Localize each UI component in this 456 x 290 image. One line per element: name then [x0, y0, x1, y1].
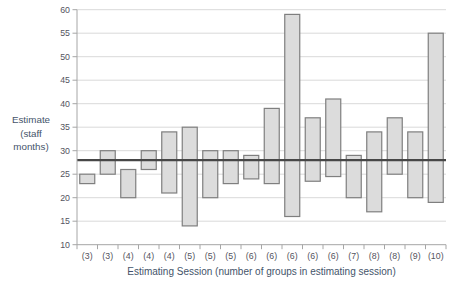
- plot-area: 1015202530354045505560(3)(3)(4)(4)(4)(5)…: [0, 0, 456, 290]
- y-axis-title-line3: months): [2, 140, 60, 154]
- y-tick-label: 35: [60, 122, 70, 132]
- y-tick-label: 10: [60, 240, 70, 250]
- y-axis-title: Estimate (staff months): [2, 113, 60, 154]
- y-tick-label: 55: [60, 28, 70, 38]
- estimate-range-bar: [80, 174, 95, 183]
- x-category-label: (7): [348, 251, 359, 261]
- x-category-label: (8): [389, 251, 400, 261]
- y-axis-title-line1: Estimate: [2, 113, 60, 127]
- estimate-range-bar: [100, 151, 115, 175]
- y-axis-title-line2: (staff: [2, 127, 60, 141]
- estimate-range-bar: [285, 14, 300, 216]
- x-category-label: (8): [369, 251, 380, 261]
- y-tick-label: 40: [60, 99, 70, 109]
- x-category-label: (9): [410, 251, 421, 261]
- x-category-label: (3): [102, 251, 113, 261]
- x-category-label: (6): [307, 251, 318, 261]
- estimate-range-bar: [305, 118, 320, 181]
- x-category-label: (5): [225, 251, 236, 261]
- estimate-range-bar: [121, 170, 136, 198]
- x-category-label: (5): [184, 251, 195, 261]
- y-tick-label: 20: [60, 193, 70, 203]
- x-axis-title: Estimating Session (number of groups in …: [77, 266, 446, 277]
- x-category-label: (4): [123, 251, 134, 261]
- estimate-range-bar: [367, 132, 382, 212]
- estimate-range-bar: [326, 99, 341, 177]
- y-tick-label: 50: [60, 52, 70, 62]
- x-category-label: (6): [266, 251, 277, 261]
- y-tick-label: 15: [60, 216, 70, 226]
- x-category-label: (3): [82, 251, 93, 261]
- estimation-range-chart: Estimate (staff months) 1015202530354045…: [0, 0, 456, 290]
- y-tick-label: 25: [60, 169, 70, 179]
- x-category-label: (6): [328, 251, 339, 261]
- y-tick-label: 60: [60, 5, 70, 15]
- estimate-range-bar: [346, 155, 361, 197]
- estimate-range-bar: [264, 108, 279, 183]
- y-tick-label: 30: [60, 146, 70, 156]
- x-category-label: (5): [205, 251, 216, 261]
- estimate-range-bar: [223, 151, 238, 184]
- estimate-range-bar: [162, 132, 177, 193]
- estimate-range-bar: [428, 33, 443, 202]
- x-category-label: (6): [287, 251, 298, 261]
- x-category-label: (10): [428, 251, 444, 261]
- estimate-range-bar: [408, 132, 423, 198]
- x-category-label: (4): [164, 251, 175, 261]
- x-category-label: (4): [143, 251, 154, 261]
- estimate-range-bar: [203, 151, 218, 198]
- estimate-range-bar: [182, 127, 197, 226]
- estimate-range-bar: [387, 118, 402, 174]
- x-category-label: (6): [246, 251, 257, 261]
- y-tick-label: 45: [60, 75, 70, 85]
